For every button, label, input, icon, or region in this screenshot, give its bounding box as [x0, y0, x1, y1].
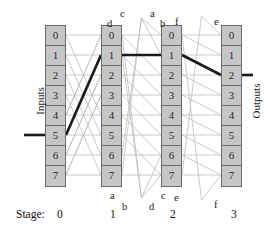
node-1-2[interactable]: 2 — [102, 66, 121, 86]
node-1-4[interactable]: 4 — [102, 106, 121, 126]
node-3-3[interactable]: 3 — [222, 86, 241, 106]
node-3-5[interactable]: 5 — [222, 126, 241, 146]
node-column-stage-2: 01234567 — [161, 25, 182, 187]
network-diagram: 01234567012345670123456701234567 Inputs … — [0, 0, 275, 237]
stage-number-2: 2 — [170, 208, 176, 220]
node-2-1[interactable]: 1 — [162, 46, 181, 66]
wrap-label-e: e — [214, 16, 219, 27]
node-3-2[interactable]: 2 — [222, 66, 241, 86]
stage-number-1: 1 — [110, 208, 116, 220]
wrap-label-e: e — [174, 192, 179, 203]
wrap-label-a: a — [110, 190, 115, 201]
wrap-label-f: f — [175, 16, 179, 27]
wrap-label-d: d — [149, 201, 154, 212]
node-3-7[interactable]: 7 — [222, 166, 241, 186]
node-0-2[interactable]: 2 — [46, 66, 65, 86]
node-0-1[interactable]: 1 — [46, 46, 65, 66]
node-1-7[interactable]: 7 — [102, 166, 121, 186]
node-1-1[interactable]: 1 — [102, 46, 121, 66]
node-2-2[interactable]: 2 — [162, 66, 181, 86]
node-0-6[interactable]: 6 — [46, 146, 65, 166]
node-3-4[interactable]: 4 — [222, 106, 241, 126]
node-1-3[interactable]: 3 — [102, 86, 121, 106]
node-2-6[interactable]: 6 — [162, 146, 181, 166]
node-1-0[interactable]: 0 — [102, 26, 121, 46]
node-2-0[interactable]: 0 — [162, 26, 181, 46]
node-0-0[interactable]: 0 — [46, 26, 65, 46]
node-0-7[interactable]: 7 — [46, 166, 65, 186]
wrap-label-b: b — [122, 201, 127, 212]
wrap-label-c: c — [120, 8, 125, 19]
wrap-label-b: b — [160, 18, 165, 29]
node-1-5[interactable]: 5 — [102, 126, 121, 146]
node-3-1[interactable]: 1 — [222, 46, 241, 66]
node-2-3[interactable]: 3 — [162, 86, 181, 106]
node-column-stage-0: 01234567 — [45, 25, 66, 187]
stage-number-0: 0 — [57, 208, 63, 220]
node-3-6[interactable]: 6 — [222, 146, 241, 166]
node-3-0[interactable]: 0 — [222, 26, 241, 46]
wrap-label-a: a — [150, 8, 155, 19]
node-2-7[interactable]: 7 — [162, 166, 181, 186]
inputs-label: Inputs — [34, 71, 46, 131]
stage-label: Stage: — [16, 208, 45, 220]
node-0-5[interactable]: 5 — [46, 126, 65, 146]
wrap-label-f: f — [214, 199, 218, 210]
outputs-label: Outputs — [250, 67, 262, 135]
node-0-3[interactable]: 3 — [46, 86, 65, 106]
node-2-5[interactable]: 5 — [162, 126, 181, 146]
node-column-stage-1: 01234567 — [101, 25, 122, 187]
stage-number-3: 3 — [231, 208, 237, 220]
node-1-6[interactable]: 6 — [102, 146, 121, 166]
node-column-stage-3: 01234567 — [221, 25, 242, 187]
wrap-label-d: d — [107, 18, 112, 29]
node-2-4[interactable]: 4 — [162, 106, 181, 126]
node-0-4[interactable]: 4 — [46, 106, 65, 126]
wrap-label-c: c — [161, 190, 166, 201]
